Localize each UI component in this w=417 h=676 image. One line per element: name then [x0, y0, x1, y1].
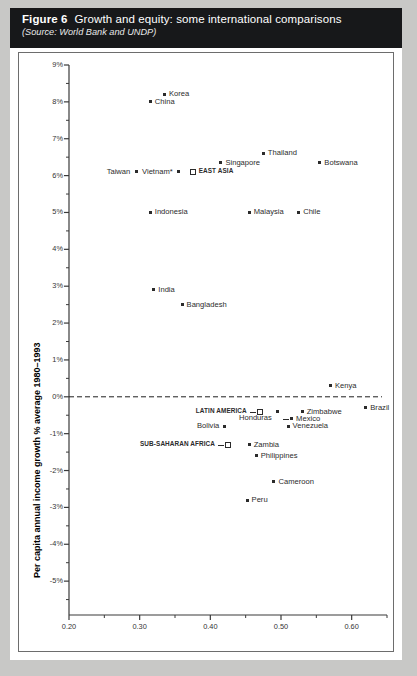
y-tick-label: -1%	[21, 429, 63, 438]
figure-title: Growth and equity: some international co…	[75, 13, 342, 25]
figure-header: Figure 6Growth and equity: some internat…	[10, 8, 402, 48]
x-tick-label: 0.60	[332, 622, 372, 631]
figure-source: (Source: World Bank and UNDP)	[22, 27, 402, 37]
figure-container: Figure 6Growth and equity: some internat…	[10, 8, 402, 660]
y-tick-label: 7%	[21, 134, 63, 143]
label-connector	[218, 445, 224, 446]
data-label-singapore: Singapore	[225, 158, 260, 167]
data-label-bangladesh: Bangladesh	[187, 300, 227, 309]
y-tick-label: 3%	[21, 281, 63, 290]
y-tick-label: 5%	[21, 207, 63, 216]
data-point-philippines[interactable]	[255, 454, 258, 457]
y-tick-label: -5%	[21, 576, 63, 585]
y-tick-label: 6%	[21, 171, 63, 180]
y-tick-label: 4%	[21, 244, 63, 253]
data-label-botswana: Botswana	[324, 158, 357, 167]
label-connector	[283, 419, 289, 420]
data-point-indonesia[interactable]	[149, 211, 152, 214]
data-label-malaysia: Malaysia	[254, 207, 284, 216]
data-point-zimbabwe[interactable]	[301, 410, 304, 413]
data-label-india: India	[158, 285, 174, 294]
data-label-taiwan: Taiwan	[107, 167, 131, 176]
x-tick-label: 0.30	[120, 622, 160, 631]
data-label-venezuela: Venezuela	[293, 421, 328, 430]
data-label-zambia: Zambia	[254, 440, 279, 449]
y-tick-label: 1%	[21, 355, 63, 364]
data-label-indonesia: Indonesia	[155, 207, 188, 216]
data-point-honduras[interactable]	[276, 410, 279, 413]
data-label-philippines: Philippines	[261, 451, 298, 460]
figure-title-line: Figure 6Growth and equity: some internat…	[22, 13, 402, 25]
data-label-kenya: Kenya	[335, 381, 357, 390]
figure-number: Figure 6	[22, 13, 68, 25]
y-tick-label: -3%	[21, 502, 63, 511]
data-point-china[interactable]	[149, 100, 152, 103]
y-tick-label: 9%	[21, 60, 63, 69]
data-point-kenya[interactable]	[329, 384, 332, 387]
plot-frame: KoreaChinaThailandSingaporeBotswanaTaiwa…	[18, 52, 394, 652]
x-tick-label: 0.50	[261, 622, 301, 631]
data-point-mexico[interactable]	[290, 417, 293, 420]
data-point-peru[interactable]	[246, 499, 249, 502]
y-tick-label: 8%	[21, 97, 63, 106]
data-point-bolivia[interactable]	[223, 425, 226, 428]
data-point-zambia[interactable]	[248, 443, 251, 446]
data-point-taiwan[interactable]	[135, 170, 138, 173]
data-label-peru: Peru	[252, 495, 268, 504]
x-tick-label: 0.40	[190, 622, 230, 631]
data-point-india[interactable]	[152, 288, 155, 291]
data-point-brazil[interactable]	[364, 406, 367, 409]
data-label-east-asia: EAST ASIA	[199, 167, 234, 174]
data-label-chile: Chile	[303, 207, 320, 216]
data-point-malaysia[interactable]	[248, 211, 251, 214]
y-tick-label: -4%	[21, 539, 63, 548]
data-point-cameroon[interactable]	[272, 480, 275, 483]
data-label-cameroon: Cameroon	[278, 477, 313, 486]
data-point-botswana[interactable]	[318, 161, 321, 164]
axes-svg	[19, 53, 395, 653]
data-label-bolivia: Bolivia	[197, 421, 219, 430]
data-point-venezuela[interactable]	[287, 425, 290, 428]
data-label-brazil: Brazil	[370, 403, 389, 412]
data-point-bangladesh[interactable]	[181, 303, 184, 306]
data-label-sub-saharan-africa: SUB-SAHARAN AFRICA	[140, 440, 215, 447]
data-label-china: China	[155, 97, 175, 106]
y-axis-title: Per capita annual income growth % averag…	[32, 342, 42, 578]
data-point-chile[interactable]	[297, 211, 300, 214]
data-point-singapore[interactable]	[219, 161, 222, 164]
data-point-sub-saharan-africa[interactable]	[225, 442, 231, 448]
data-point-vietnam[interactable]	[177, 170, 180, 173]
data-point-thailand[interactable]	[262, 152, 265, 155]
y-tick-label: -2%	[21, 466, 63, 475]
data-label-thailand: Thailand	[268, 148, 297, 157]
y-tick-label: 2%	[21, 318, 63, 327]
y-tick-label: 0%	[21, 392, 63, 401]
data-label-vietnam: Vietnam*	[142, 167, 173, 176]
data-label-honduras: Honduras	[239, 413, 272, 422]
scatter-plot: KoreaChinaThailandSingaporeBotswanaTaiwa…	[19, 53, 395, 653]
x-tick-label: 0.20	[49, 622, 89, 631]
data-point-east-asia[interactable]	[190, 169, 196, 175]
data-point-korea[interactable]	[163, 93, 166, 96]
